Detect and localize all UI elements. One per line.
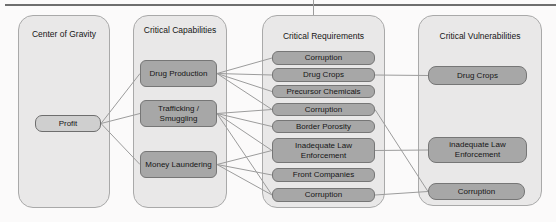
node-req-border-porosity: Border Porosity <box>272 120 375 133</box>
node-money-laundering: Money Laundering <box>140 151 217 178</box>
node-req-inadequate-law-enforcement: Inadequate Law Enforcement <box>272 138 375 163</box>
node-vul-drug-crops: Drug Crops <box>428 66 527 85</box>
column-title-critical-capabilities: Critical Capabilities <box>134 16 226 36</box>
node-vul-corruption: Corruption <box>428 183 525 200</box>
cog-analysis-diagram: Center of Gravity Critical Capabilities … <box>0 0 556 222</box>
column-title-critical-vulnerabilities: Critical Vulnerabilities <box>419 16 541 42</box>
node-req-precursor-chemicals: Precursor Chemicals <box>272 85 375 98</box>
node-req-corruption-1: Corruption <box>272 51 375 65</box>
node-trafficking-smuggling: Trafficking / Smuggling <box>140 100 217 127</box>
column-critical-vulnerabilities: Critical Vulnerabilities <box>418 15 542 206</box>
node-profit: Profit <box>35 115 101 132</box>
top-rule <box>5 4 556 6</box>
node-req-front-companies: Front Companies <box>272 168 375 182</box>
node-drug-production: Drug Production <box>140 60 217 87</box>
node-vul-inadequate-law-enforcement: inadequate Law Enforcement <box>428 137 527 163</box>
node-req-corruption-3: Corruption <box>272 188 375 202</box>
column-center-of-gravity: Center of Gravity <box>18 15 110 208</box>
column-title-critical-requirements: Critical Requirements <box>263 16 384 42</box>
node-req-drug-crops: Drug Crops <box>272 68 375 82</box>
column-title-center-of-gravity: Center of Gravity <box>19 16 109 40</box>
node-req-corruption-2: Corruption <box>272 103 375 116</box>
